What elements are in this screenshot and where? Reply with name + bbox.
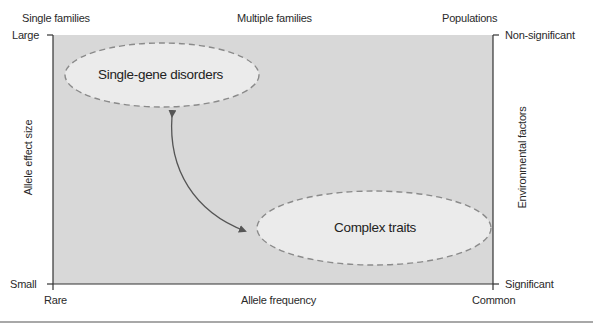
node-single-gene-disorders: Single-gene disorders bbox=[98, 68, 223, 82]
node-complex-traits: Complex traits bbox=[334, 221, 416, 235]
bottom-axis-left-label: Rare bbox=[44, 295, 67, 306]
left-axis-title: Allele effect size bbox=[23, 108, 34, 208]
left-axis-top-label: Large bbox=[12, 30, 39, 41]
right-axis-bottom-label: Significant bbox=[505, 279, 554, 290]
bottom-divider bbox=[0, 321, 593, 323]
right-axis-top-label: Non-significant bbox=[505, 30, 575, 41]
bottom-axis-title: Allele frequency bbox=[241, 295, 316, 306]
double-arrow-icon bbox=[172, 116, 245, 231]
bottom-axis-right-label: Common bbox=[472, 295, 515, 306]
left-axis-bottom-label: Small bbox=[10, 279, 37, 290]
right-axis-title: Environmental factors bbox=[517, 98, 528, 218]
